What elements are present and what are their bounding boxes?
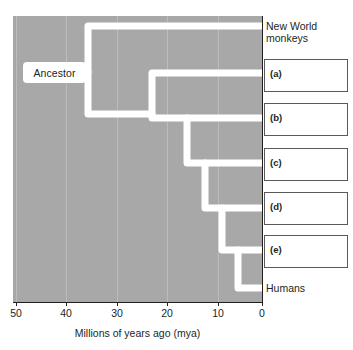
tick-label-20: 20 [161, 307, 173, 319]
x-axis-line [13, 302, 262, 303]
tick-label-30: 30 [111, 307, 123, 319]
tick-mark-40 [66, 302, 67, 306]
tick-label-50: 50 [10, 307, 22, 319]
gridline-50mya [16, 16, 17, 302]
gridline-30mya [117, 16, 118, 302]
x-axis-title: Millions of years ago (mya) [0, 327, 275, 339]
gridline-40mya [66, 16, 67, 302]
taxon-answer-box-a[interactable]: (a) [264, 59, 348, 92]
taxon-answer-box-d[interactable]: (d) [264, 192, 348, 225]
gridline-10mya [218, 16, 219, 302]
y-axis-line [262, 16, 263, 302]
taxon-box-label-d: (d) [270, 201, 282, 212]
phylogenetic-tree-figure: Ancestor 50 40 30 20 10 0 Millions of ye… [0, 0, 353, 350]
ancestor-label: Ancestor [33, 67, 75, 79]
tick-mark-10 [218, 302, 219, 306]
tick-mark-20 [167, 302, 168, 306]
tick-mark-30 [117, 302, 118, 306]
taxon-answer-box-b[interactable]: (b) [264, 103, 348, 136]
tick-label-40: 40 [60, 307, 72, 319]
tick-mark-0 [262, 302, 263, 306]
tick-mark-50 [16, 302, 17, 306]
taxon-answer-box-c[interactable]: (c) [264, 148, 348, 181]
taxon-box-label-c: (c) [270, 157, 282, 168]
taxon-label-new-world-monkeys: New World monkeys [266, 20, 317, 44]
taxon-box-label-b: (b) [270, 112, 282, 123]
taxon-box-label-e: (e) [270, 244, 282, 255]
tick-label-10: 10 [212, 307, 224, 319]
plot-area [13, 16, 262, 302]
ancestor-node: Ancestor [23, 62, 86, 83]
taxon-box-label-a: (a) [270, 68, 282, 79]
tick-label-0: 0 [259, 307, 265, 319]
taxon-label-humans: Humans [266, 282, 305, 294]
gridline-20mya [167, 16, 168, 302]
taxon-answer-box-e[interactable]: (e) [264, 235, 348, 268]
